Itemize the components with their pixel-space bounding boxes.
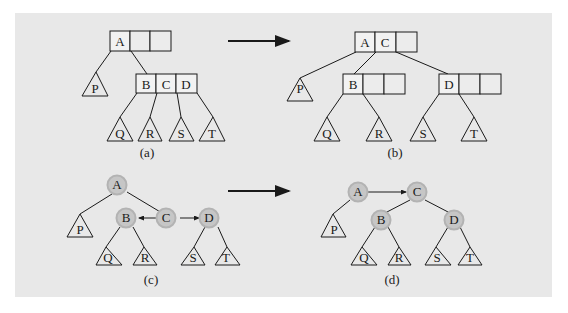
b-node-A: A xyxy=(360,35,370,50)
c-subtree-T: T xyxy=(222,250,230,265)
a-subtree-Q: Q xyxy=(115,126,125,141)
d-node-D: D xyxy=(449,212,458,227)
b-node-B: B xyxy=(349,77,358,92)
d-subtree-S: S xyxy=(433,250,440,265)
d-node-B: B xyxy=(377,212,386,227)
c-node-B: B xyxy=(122,210,131,225)
caption-c: (c) xyxy=(144,272,158,287)
panel-b xyxy=(300,32,501,141)
caption-d: (d) xyxy=(384,272,399,287)
a-node-D: D xyxy=(181,77,190,92)
b-node-D: D xyxy=(444,77,453,92)
c-node-C: C xyxy=(162,210,171,225)
b-subtree-Q: Q xyxy=(322,126,332,141)
c-node-A: A xyxy=(112,177,122,192)
c-subtree-P: P xyxy=(76,222,83,237)
b-node-C: C xyxy=(381,35,390,50)
a-node-C: C xyxy=(162,77,171,92)
d-subtree-Q: Q xyxy=(359,250,369,265)
c-subtree-S: S xyxy=(189,250,196,265)
d-subtree-R: R xyxy=(395,250,404,265)
d-subtree-P: P xyxy=(330,222,337,237)
c-subtree-Q: Q xyxy=(103,250,113,265)
a-node-B: B xyxy=(142,77,151,92)
d-node-A: A xyxy=(353,184,363,199)
a-subtree-P: P xyxy=(91,81,98,96)
diagram-svg: A B C D P Q R S T (a) A C B D P Q R S T … xyxy=(0,0,568,313)
c-node-D: D xyxy=(204,210,213,225)
a-subtree-T: T xyxy=(208,126,216,141)
b-subtree-R: R xyxy=(375,126,384,141)
a-subtree-R: R xyxy=(146,126,155,141)
panel-a xyxy=(82,31,225,141)
a-node-A: A xyxy=(115,34,125,49)
caption-a: (a) xyxy=(140,145,154,160)
caption-b: (b) xyxy=(387,145,402,160)
b-subtree-T: T xyxy=(470,126,478,141)
panel-c xyxy=(67,192,240,265)
a-subtree-S: S xyxy=(177,126,184,141)
c-subtree-R: R xyxy=(141,250,150,265)
d-node-C: C xyxy=(413,184,422,199)
d-subtree-T: T xyxy=(466,250,474,265)
b-subtree-S: S xyxy=(419,126,426,141)
